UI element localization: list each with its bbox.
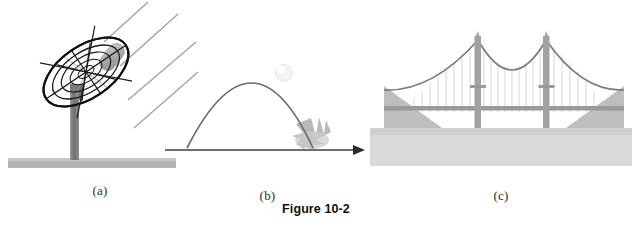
tower-left-crossbeam bbox=[470, 85, 486, 88]
suspender-cables bbox=[406, 0, 610, 200]
projectile-ball bbox=[276, 65, 293, 82]
tower-right-cap bbox=[543, 31, 550, 40]
ground-slab-highlight bbox=[8, 158, 176, 161]
cable-main-span bbox=[478, 40, 546, 70]
bridge-tower-right bbox=[543, 36, 550, 128]
bridge-deck bbox=[384, 106, 624, 111]
figure-caption: Figure 10-2 bbox=[0, 202, 632, 216]
suspension-bridge-illustration bbox=[370, 0, 632, 200]
projectile-trajectory-illustration bbox=[165, 0, 370, 200]
bridge-tower-left bbox=[475, 36, 482, 128]
tower-left-cap bbox=[475, 31, 482, 40]
figure-10-2: (a) (b) bbox=[0, 0, 632, 231]
ground-axis-arrowhead bbox=[353, 145, 365, 155]
water-surface-line bbox=[370, 128, 632, 135]
panel-b-projectile: (b) bbox=[165, 0, 370, 231]
main-catenary-cables bbox=[384, 40, 624, 90]
cable-left-anchor bbox=[384, 40, 478, 90]
projectile-ball-highlight bbox=[277, 66, 285, 74]
panel-c-suspension-bridge: (c) bbox=[370, 0, 632, 231]
dish-reflector bbox=[32, 24, 141, 121]
incoming-ray-1 bbox=[104, 2, 148, 42]
trajectory-parabola bbox=[187, 83, 313, 148]
cable-right-anchor bbox=[546, 40, 624, 90]
tower-right-crossbeam bbox=[539, 85, 555, 88]
